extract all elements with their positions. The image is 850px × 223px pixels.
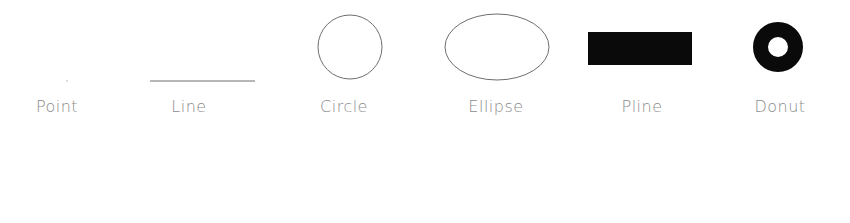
label-point: Point [36,97,78,116]
point-shape [66,80,68,82]
drawing-canvas [0,0,850,223]
label-line: Line [171,97,206,116]
pline-shape [588,32,692,65]
label-pline: Pline [621,97,662,116]
label-donut: Donut [754,97,805,116]
circle-shape [318,15,382,79]
donut-shape [761,30,796,65]
label-ellipse: Ellipse [468,97,523,116]
ellipse-shape [445,14,549,80]
label-circle: Circle [320,97,368,116]
